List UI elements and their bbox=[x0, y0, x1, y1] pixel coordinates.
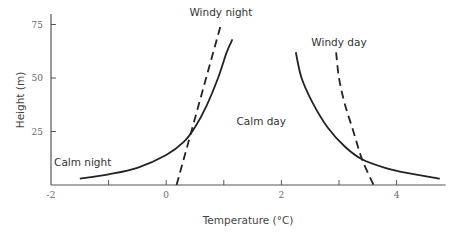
label-calm-day: Calm day bbox=[236, 115, 286, 127]
labels: Windy nightCalm nightWindy dayCalm day bbox=[54, 6, 367, 168]
label-windy-night: Windy night bbox=[189, 6, 252, 18]
series bbox=[80, 25, 440, 186]
x-tick-label: 0 bbox=[163, 190, 169, 200]
x-axis-label: Temperature (°C) bbox=[202, 214, 294, 226]
series-calm-day bbox=[296, 52, 440, 178]
label-calm-night: Calm night bbox=[54, 156, 111, 168]
y-tick-label: 25 bbox=[32, 127, 44, 137]
x-tick-label: 4 bbox=[394, 190, 400, 200]
x-tick-label: 2 bbox=[279, 190, 285, 200]
series-windy-night bbox=[177, 25, 221, 186]
series-windy-day bbox=[336, 52, 373, 185]
y-tick-label: 50 bbox=[32, 73, 44, 83]
chart: -2024255075 Windy nightCalm nightWindy d… bbox=[0, 0, 460, 235]
label-windy-day: Windy day bbox=[311, 36, 366, 48]
y-tick-label: 75 bbox=[32, 20, 44, 30]
x-tick-label: -2 bbox=[47, 190, 56, 200]
y-axis-label: Height (m) bbox=[14, 72, 26, 128]
